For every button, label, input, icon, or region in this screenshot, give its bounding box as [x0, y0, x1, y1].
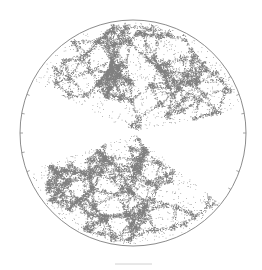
galaxy-points [33, 23, 239, 244]
wedge-diagram [0, 0, 262, 270]
cosmic-web-figure [0, 0, 262, 270]
